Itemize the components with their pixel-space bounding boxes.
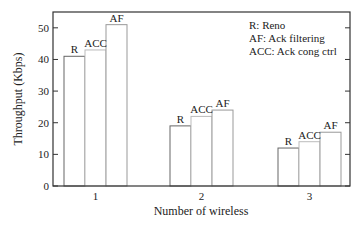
bar-r-3 (278, 148, 299, 186)
bar-af-2 (212, 110, 233, 186)
bar-acc-3 (299, 142, 320, 186)
y-tick-label: 20 (38, 117, 50, 129)
bar-r-2 (170, 126, 191, 186)
legend-item-reno: R: Reno (249, 19, 286, 31)
bar-label: R (177, 113, 185, 125)
x-tick-label: 3 (307, 190, 313, 202)
bar-label: ACC (84, 37, 107, 49)
legend: R: Reno AF: Ack filtering ACC: Ack cong … (249, 19, 337, 57)
bar-chart: RACCAFRACCAFRACCAF 01020304050 123 Throu… (0, 0, 364, 225)
y-tick-label: 10 (38, 148, 50, 160)
y-tick-label: 40 (38, 53, 50, 65)
bar-label: R (285, 135, 293, 147)
x-axis-label: Number of wireless (154, 204, 249, 218)
legend-item-ack-cong-ctrl: ACC: Ack cong ctrl (249, 45, 337, 57)
bar-r-1 (64, 56, 85, 186)
bar-af-1 (106, 25, 127, 186)
bar-label: R (71, 43, 79, 55)
legend-item-ack-filtering: AF: Ack filtering (249, 32, 325, 44)
y-tick-label: 30 (38, 85, 50, 97)
bar-label: AF (323, 119, 337, 131)
bar-label: ACC (298, 129, 321, 141)
bar-af-3 (320, 132, 341, 186)
bar-acc-1 (85, 50, 106, 186)
y-axis-label: Throughput (Kbps) (11, 53, 25, 146)
x-tick-label: 2 (199, 190, 205, 202)
y-tick-label: 0 (44, 180, 50, 192)
x-tick-label: 1 (93, 190, 99, 202)
bar-acc-2 (191, 116, 212, 186)
bar-label: AF (215, 97, 229, 109)
x-axis-ticks: 123 (93, 190, 313, 202)
bar-label: ACC (190, 103, 213, 115)
y-tick-label: 50 (38, 22, 50, 34)
bar-label: AF (109, 12, 123, 24)
